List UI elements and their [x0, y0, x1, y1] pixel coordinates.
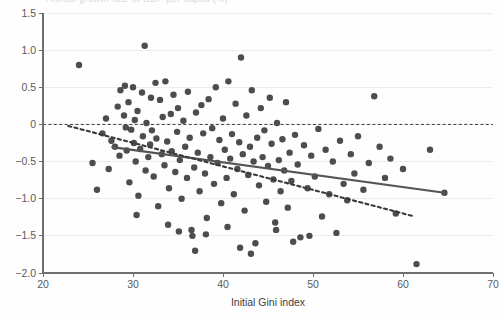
data-point — [152, 80, 158, 86]
data-point — [89, 160, 95, 166]
data-point — [170, 92, 176, 98]
data-point — [211, 181, 217, 187]
data-point — [122, 83, 128, 89]
data-point — [161, 162, 167, 168]
data-point — [133, 158, 139, 164]
data-point — [292, 132, 298, 138]
x-tick-label: 70 — [487, 278, 499, 290]
data-point — [259, 154, 265, 160]
data-point — [133, 212, 139, 218]
data-point — [413, 261, 419, 267]
data-point — [135, 193, 141, 199]
data-point — [285, 204, 291, 210]
data-point — [115, 103, 121, 109]
data-point — [151, 173, 157, 179]
data-point — [191, 164, 197, 170]
data-point — [160, 114, 166, 120]
y-tick-label: 0 — [30, 118, 36, 130]
data-point — [94, 187, 100, 193]
x-axis-title: Initial Gini index — [231, 296, 306, 308]
data-point — [252, 240, 258, 246]
data-point — [162, 78, 168, 84]
data-point — [301, 142, 307, 148]
y-tick-label: −2.0 — [15, 267, 36, 279]
y-tick-label: 1.0 — [21, 44, 36, 56]
data-point — [164, 138, 170, 144]
scatter-plot-figure: Annual growth rate of GDP per capita (%)… — [0, 0, 502, 317]
data-point — [200, 130, 206, 136]
data-point — [267, 94, 273, 100]
data-point — [182, 144, 188, 150]
data-point — [185, 89, 191, 95]
data-point — [272, 219, 278, 225]
data-point — [268, 141, 274, 147]
data-point — [340, 181, 346, 187]
data-point — [128, 126, 134, 132]
data-point — [180, 118, 186, 124]
data-point — [223, 175, 229, 181]
data-point — [400, 166, 406, 172]
data-point — [177, 157, 183, 163]
data-point — [283, 99, 289, 105]
data-point — [209, 125, 215, 131]
data-point — [220, 115, 226, 121]
data-point — [205, 96, 211, 102]
data-point — [227, 155, 233, 161]
data-point — [351, 170, 357, 176]
data-point — [290, 239, 296, 245]
data-point — [149, 127, 155, 133]
data-point — [295, 161, 301, 167]
data-point — [203, 231, 209, 237]
data-point — [236, 139, 242, 145]
chart-canvas: 1.51.00.50−0.5−1.0−1.5−2.0 203040506070 … — [0, 0, 502, 317]
data-point — [222, 146, 228, 152]
data-point — [288, 178, 294, 184]
data-point — [213, 84, 219, 90]
data-point — [153, 135, 159, 141]
data-point — [247, 144, 253, 150]
data-point — [125, 99, 131, 105]
data-point — [387, 155, 393, 161]
data-point — [319, 213, 325, 219]
data-point — [188, 227, 194, 233]
tick-marks-group — [39, 13, 493, 277]
data-point — [249, 87, 255, 93]
data-point — [165, 222, 171, 228]
data-point — [254, 135, 260, 141]
x-tick-label: 30 — [127, 278, 139, 290]
data-point — [238, 54, 244, 60]
data-point — [237, 245, 243, 251]
data-point — [184, 175, 190, 181]
data-point — [103, 115, 109, 121]
y-axis-tick-labels: 1.51.00.50−0.5−1.0−1.5−2.0 — [15, 7, 36, 279]
data-point — [176, 228, 182, 234]
data-point — [360, 187, 366, 193]
data-point — [196, 188, 202, 194]
data-point — [348, 151, 354, 157]
data-point — [139, 89, 145, 95]
data-point — [248, 250, 254, 256]
data-point — [142, 42, 148, 48]
x-tick-label: 20 — [37, 278, 49, 290]
data-point — [243, 112, 249, 118]
data-point — [382, 175, 388, 181]
data-point — [198, 102, 204, 108]
x-tick-label: 40 — [217, 278, 229, 290]
data-points-group — [76, 42, 448, 267]
y-tick-label: 0.5 — [21, 81, 36, 93]
y-tick-label: −0.5 — [15, 155, 36, 167]
data-point — [279, 136, 285, 142]
data-point — [202, 170, 208, 176]
data-point — [355, 133, 361, 139]
data-point — [224, 224, 230, 230]
data-point — [157, 97, 163, 103]
y-tick-label: −1.5 — [15, 229, 36, 241]
data-point — [204, 215, 210, 221]
data-point — [140, 133, 146, 139]
data-point — [273, 227, 279, 233]
data-point — [330, 158, 336, 164]
data-point — [427, 146, 433, 152]
data-point — [166, 185, 172, 191]
data-point — [308, 152, 314, 158]
data-point — [366, 160, 372, 166]
